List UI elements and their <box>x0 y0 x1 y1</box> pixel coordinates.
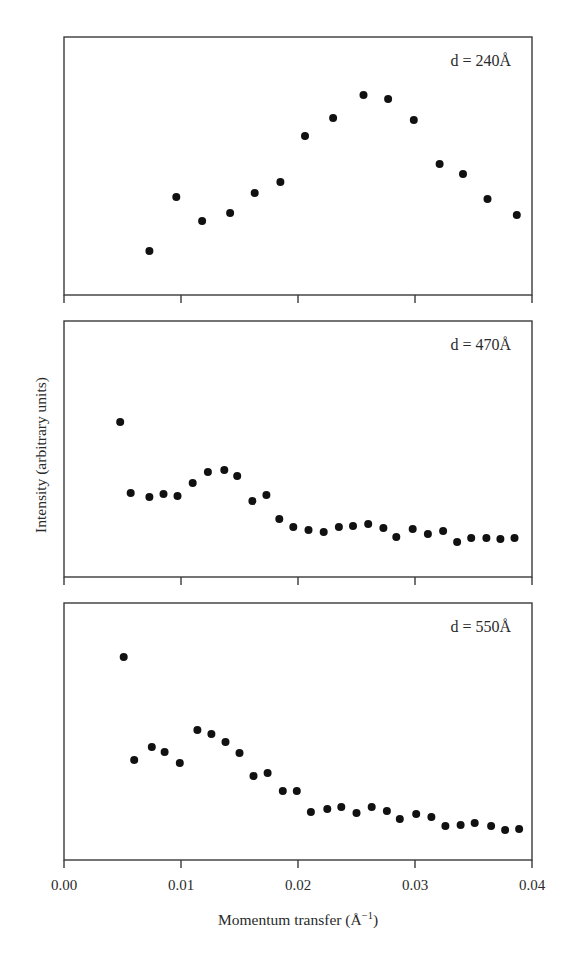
data-point <box>364 520 372 528</box>
data-point <box>467 534 475 542</box>
data-point <box>160 490 168 498</box>
chart-canvas: d = 240Å d = 470Å d = 550Å 0.00 0.01 0.0… <box>0 0 576 963</box>
x-axis-label-superscript: −1 <box>362 910 373 921</box>
data-point <box>250 772 258 780</box>
x-tick-label: 0.01 <box>168 877 194 893</box>
data-point <box>262 491 270 499</box>
data-point <box>148 743 156 751</box>
x-tick-labels: 0.00 0.01 0.02 0.03 0.04 <box>51 877 546 893</box>
data-point <box>130 756 138 764</box>
data-point <box>301 132 309 140</box>
data-point <box>226 209 234 217</box>
data-point <box>198 217 206 225</box>
x-tick-label: 0.03 <box>402 877 428 893</box>
panel-2-frame <box>64 321 532 577</box>
panel-1-frame <box>64 37 532 295</box>
data-point <box>323 805 331 813</box>
data-point <box>496 535 504 543</box>
data-point <box>222 738 230 746</box>
data-point <box>279 787 287 795</box>
data-point <box>410 116 418 124</box>
data-point <box>236 749 244 757</box>
panel-2-label: d = 470Å <box>450 336 511 353</box>
data-point <box>337 803 345 811</box>
data-point <box>127 489 135 497</box>
data-point <box>220 466 228 474</box>
data-point <box>174 492 182 500</box>
data-point <box>176 759 184 767</box>
panel-1-x-ticks <box>64 295 532 303</box>
data-point <box>335 523 343 531</box>
data-point <box>368 803 376 811</box>
panel-3-x-ticks <box>64 860 532 868</box>
panel-2-data-points <box>116 418 518 546</box>
data-point <box>424 530 432 538</box>
data-point <box>457 821 465 829</box>
figure: d = 240Å d = 470Å d = 550Å 0.00 0.01 0.0… <box>0 0 576 963</box>
data-point <box>487 822 495 830</box>
panel-2-x-ticks <box>64 577 532 585</box>
data-point <box>320 528 328 536</box>
x-axis-label-close: ) <box>373 911 378 929</box>
data-point <box>353 809 361 817</box>
panel-2: d = 470Å <box>64 321 532 585</box>
data-point <box>471 819 479 827</box>
data-point <box>360 91 368 99</box>
data-point <box>275 515 283 523</box>
data-point <box>409 525 417 533</box>
data-point <box>427 813 435 821</box>
data-point <box>383 807 391 815</box>
data-point <box>145 493 153 501</box>
data-point <box>120 653 128 661</box>
data-point <box>396 815 404 823</box>
y-axis-label: Intensity (arbitrary units) <box>32 377 50 533</box>
x-tick-label: 0.02 <box>285 877 311 893</box>
data-point <box>264 769 272 777</box>
data-point <box>293 787 301 795</box>
x-tick-label: 0.04 <box>519 877 546 893</box>
panel-1-data-points <box>145 91 520 255</box>
data-point <box>329 114 337 122</box>
data-point <box>501 826 509 834</box>
data-point <box>379 524 387 532</box>
panel-1: d = 240Å <box>64 37 532 303</box>
data-point <box>207 730 215 738</box>
x-axis-label-main: Momentum transfer (Å <box>218 911 363 929</box>
data-point <box>161 748 169 756</box>
data-point <box>305 526 313 534</box>
data-point <box>233 472 241 480</box>
data-point <box>276 178 284 186</box>
x-axis-label: Momentum transfer (Å−1) <box>218 910 378 929</box>
data-point <box>172 193 180 201</box>
data-point <box>392 533 400 541</box>
data-point <box>436 160 444 168</box>
data-point <box>349 522 357 530</box>
panel-3-data-points <box>120 653 523 834</box>
data-point <box>453 538 461 546</box>
data-point <box>289 523 297 531</box>
data-point <box>384 95 392 103</box>
data-point <box>482 534 490 542</box>
data-point <box>189 479 197 487</box>
panel-1-label: d = 240Å <box>450 52 511 69</box>
data-point <box>248 497 256 505</box>
data-point <box>145 247 153 255</box>
data-point <box>441 822 449 830</box>
data-point <box>484 195 492 203</box>
data-point <box>513 211 521 219</box>
data-point <box>439 527 447 535</box>
x-tick-label: 0.00 <box>51 877 77 893</box>
data-point <box>193 726 201 734</box>
panel-3-label: d = 550Å <box>450 618 511 635</box>
panel-3: d = 550Å <box>64 603 532 868</box>
data-point <box>515 825 523 833</box>
data-point <box>412 810 420 818</box>
data-point <box>307 808 315 816</box>
data-point <box>204 468 212 476</box>
data-point <box>251 189 259 197</box>
data-point <box>116 418 124 426</box>
data-point <box>511 534 519 542</box>
data-point <box>459 170 467 178</box>
